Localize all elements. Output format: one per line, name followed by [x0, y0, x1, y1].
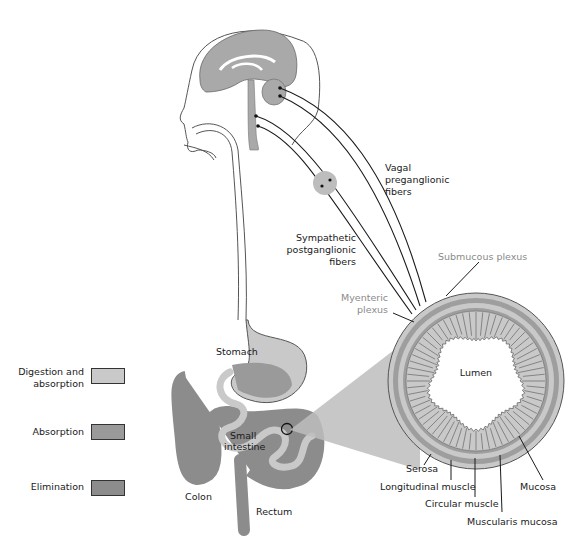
rectum [240, 460, 244, 530]
legend-label-absorption: Absorption [0, 426, 84, 438]
vagal-label-2: preganglionic [385, 174, 449, 185]
myenteric-plexus-label-1: Myenteric [341, 292, 388, 303]
rectum-label: Rectum [256, 506, 292, 517]
legend-swatch-absorption [91, 424, 125, 440]
cerebellum [262, 79, 286, 105]
small-intestine-label-2: intestine [224, 441, 266, 452]
small-intestine-label-1: Small [230, 430, 256, 441]
legend-label-elimination: Elimination [0, 481, 84, 493]
colon-label: Colon [185, 491, 212, 502]
lumen-label: Lumen [460, 367, 492, 378]
circular-muscle-label: Circular muscle [425, 498, 499, 509]
sympathetic-label-3: fibers [329, 256, 356, 267]
serosa-label: Serosa [406, 463, 438, 474]
figure-svg: Vagal preganglionic fibers Sympathetic p… [0, 0, 583, 546]
gi-innervation-figure: Vagal preganglionic fibers Sympathetic p… [0, 0, 583, 546]
legend-label-digestion: Digestion and absorption [0, 366, 84, 390]
submucous-plexus-label: Submucous plexus [438, 251, 527, 262]
vagal-label-1: Vagal [385, 162, 411, 173]
stomach [231, 320, 306, 403]
brain [200, 30, 297, 150]
longitudinal-muscle-label: Longitudinal muscle [380, 481, 476, 492]
vagal-label-3: fibers [385, 186, 412, 197]
colon [178, 378, 317, 530]
legend-swatch-digestion [91, 368, 125, 384]
legend-swatch-elimination [91, 480, 125, 496]
intestine-cross-section [388, 293, 564, 469]
sympathetic-ganglion [313, 171, 337, 195]
muscularis-mucosa-label: Muscularis mucosa [467, 516, 557, 527]
nerve-fibers [256, 88, 426, 314]
stomach-label: Stomach [216, 346, 258, 357]
myenteric-plexus-label-2: plexus [357, 304, 388, 315]
sympathetic-label-2: postganglionic [287, 244, 356, 255]
mucosa-label: Mucosa [520, 481, 556, 492]
submucous-leader [446, 262, 479, 296]
esophagus [184, 124, 246, 320]
sympathetic-label-1: Sympathetic [296, 232, 356, 243]
myenteric-leader [393, 313, 414, 322]
